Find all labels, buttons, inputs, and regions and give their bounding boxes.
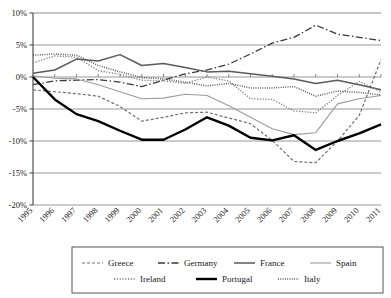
x-tick-label: 2007	[276, 205, 295, 224]
series-line-portugal	[33, 77, 381, 150]
legend-border	[72, 247, 383, 293]
y-tick-label: 5%	[16, 40, 27, 50]
x-tick-label: 2000	[124, 205, 143, 224]
legend-label-spain: Spain	[336, 258, 357, 268]
chart-container: 10%5%0%-5%-10%-15%-20%199519961997199819…	[0, 0, 391, 298]
series-line-ireland	[33, 56, 381, 113]
y-tick-label: -5%	[13, 104, 27, 114]
legend-label-portugal: Portugal	[222, 274, 253, 284]
legend-label-france: France	[260, 258, 285, 268]
x-axis-tick-labels: 1995199619971998199920002001200220032004…	[15, 205, 382, 225]
x-tick-label: 2009	[320, 205, 339, 224]
x-tick-label: 2005	[233, 205, 252, 224]
legend-label-germany: Germany	[184, 258, 218, 268]
x-tick-label: 2008	[298, 205, 317, 224]
x-tick-label: 2006	[255, 205, 274, 224]
series-group	[33, 25, 381, 163]
y-tick-label: -15%	[9, 168, 27, 178]
legend-label-ireland: Ireland	[140, 274, 166, 284]
y-axis	[30, 13, 34, 205]
chart-legend: GreeceGermanyFranceSpainIrelandPortugalI…	[72, 247, 383, 293]
series-line-spain	[33, 76, 381, 135]
y-axis-tick-labels: 10%5%0%-5%-10%-15%-20%	[9, 8, 27, 210]
legend-label-greece: Greece	[108, 258, 133, 268]
y-tick-label: -10%	[9, 136, 27, 146]
x-tick-label: 1999	[102, 205, 121, 224]
x-tick-label: 1996	[37, 205, 56, 224]
x-tick-label: 1998	[81, 205, 100, 224]
x-tick-label: 2004	[211, 205, 231, 225]
y-tick-label: 0%	[16, 72, 27, 82]
x-tick-label: 2001	[146, 205, 165, 224]
x-tick-label: 1997	[59, 205, 78, 224]
y-tick-label: 10%	[11, 8, 27, 18]
legend-label-italy: Italy	[304, 274, 321, 284]
x-tick-label: 2010	[342, 205, 361, 224]
gridlines	[33, 13, 381, 205]
x-tick-label: 2011	[364, 205, 383, 224]
x-tick-label: 2002	[168, 205, 187, 224]
x-tick-label: 2003	[189, 205, 208, 224]
line-chart: 10%5%0%-5%-10%-15%-20%199519961997199819…	[0, 0, 391, 298]
